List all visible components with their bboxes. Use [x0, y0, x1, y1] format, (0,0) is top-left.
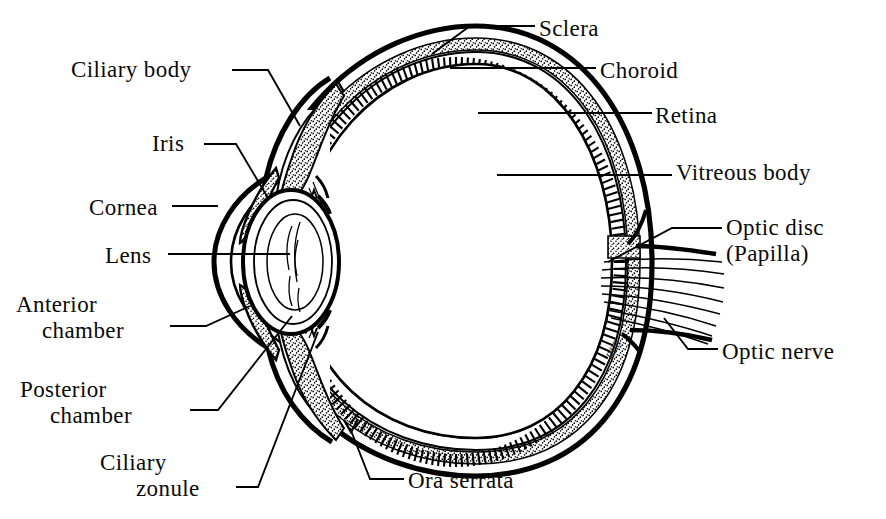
label-optic-nerve: Optic nerve [722, 339, 834, 365]
label-anterior-chamber: Anterior chamber [16, 292, 124, 345]
label-retina-text: Retina [655, 103, 717, 128]
label-choroid: Choroid [600, 58, 678, 84]
label-optic-nerve-text: Optic nerve [722, 339, 834, 364]
label-optic-disc: Optic disc (Papilla) [726, 215, 824, 268]
label-optic-disc-subtext: (Papilla) [726, 241, 824, 267]
label-retina: Retina [655, 103, 717, 129]
label-ciliary-zonule-text: Ciliary [100, 450, 167, 475]
label-cornea-text: Cornea [89, 195, 158, 220]
label-iris-text: Iris [152, 131, 184, 156]
label-ora-serrata: Ora serrata [408, 468, 514, 494]
label-anterior-chamber-subtext: chamber [16, 318, 124, 344]
label-ciliary-zonule: Ciliary zonule [100, 450, 200, 503]
label-sclera: Sclera [539, 16, 599, 42]
label-vitreous-body-text: Vitreous body [676, 160, 811, 185]
eye-anatomy-figure: RBE Sclera Choroid Retina Vitreous body … [0, 0, 886, 519]
lens-outer-capsule [243, 190, 339, 334]
label-vitreous-body: Vitreous body [676, 160, 811, 186]
label-ora-serrata-text: Ora serrata [408, 468, 514, 493]
label-lens-text: Lens [105, 243, 151, 268]
label-optic-disc-text: Optic disc [726, 215, 824, 240]
label-iris: Iris [152, 131, 184, 157]
label-posterior-chamber-text: Posterior [20, 377, 107, 402]
label-ciliary-body: Ciliary body [71, 57, 191, 83]
label-lens: Lens [105, 243, 151, 269]
label-anterior-chamber-text: Anterior [16, 292, 97, 317]
label-choroid-text: Choroid [600, 58, 678, 83]
label-ciliary-zonule-subtext: zonule [100, 476, 200, 502]
globe-layers [150, 26, 652, 476]
label-sclera-text: Sclera [539, 16, 599, 41]
label-posterior-chamber-subtext: chamber [20, 403, 132, 429]
label-cornea: Cornea [89, 195, 158, 221]
label-ciliary-body-text: Ciliary body [71, 57, 191, 82]
label-posterior-chamber: Posterior chamber [20, 377, 132, 430]
